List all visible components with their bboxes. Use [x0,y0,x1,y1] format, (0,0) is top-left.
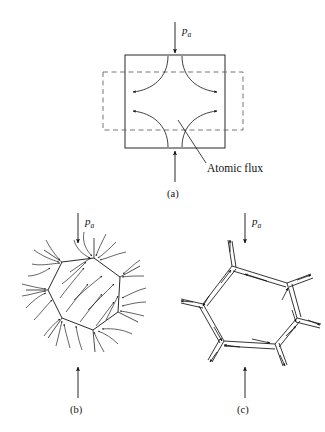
panel-c [181,213,321,398]
panel-c-caption: (c) [237,404,249,415]
panel-a-grain-square [125,55,225,148]
panel-b-flux-streamlines [22,232,146,352]
panel-b-grain-hexagon [48,258,120,330]
panel-b [22,213,146,398]
panel-a-dashed-rect [103,72,243,130]
panel-c-grain-boundaries-double [199,266,301,349]
figure-canvas [0,0,325,432]
panel-a-flux-curve-bl [133,111,168,147]
panel-a-caption: (a) [167,188,179,199]
panel-a-flux-curve-br [182,111,217,147]
panel-c-pressure-label: pa [252,215,261,230]
panel-a-flux-curve-tr [182,56,217,92]
panel-a-flux-curve-tl [133,56,168,92]
panel-c-boundary-stubs [181,240,321,366]
panel-b-boundary-stubs [26,238,140,352]
atomic-flux-label: Atomic flux [207,162,263,174]
panel-b-pressure-label: pa [85,215,94,230]
panel-a-pressure-label: pa [182,24,191,39]
panel-a [103,22,243,182]
panel-c-flux-arrows [181,240,320,366]
panel-b-caption: (b) [70,404,82,415]
